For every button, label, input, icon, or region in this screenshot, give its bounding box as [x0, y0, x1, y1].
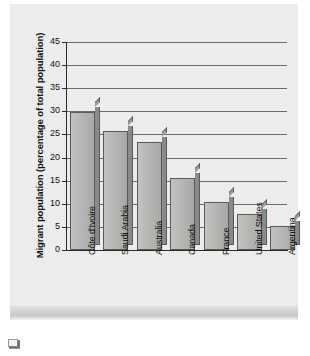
y-axis-title: Migrant population (percentage of total … [34, 21, 45, 271]
x-axis-category-label: United States [254, 202, 264, 255]
y-tick-mark [62, 158, 67, 159]
y-tick-label: 30 [38, 105, 60, 115]
y-tick-label: 20 [38, 152, 60, 162]
x-axis-category-label: Australia [154, 221, 164, 255]
broken-image-icon [8, 339, 21, 350]
y-tick-mark [62, 88, 67, 89]
gridline [67, 134, 287, 135]
y-tick-label: 25 [38, 128, 60, 138]
bar-top-face [195, 163, 200, 173]
y-tick-mark [62, 42, 67, 43]
y-tick-label: 15 [38, 175, 60, 185]
gridline [67, 88, 287, 89]
gridline [67, 158, 287, 159]
y-tick-label: 35 [38, 82, 60, 92]
y-tick-label: 0 [38, 244, 60, 254]
y-tick-mark [62, 250, 67, 251]
y-tick-label: 40 [38, 59, 60, 69]
y-tick-label: 5 [38, 221, 60, 231]
bar-top-face [95, 97, 100, 107]
y-tick-mark [62, 65, 67, 66]
x-axis-category-label: France [221, 228, 231, 255]
y-tick-mark [62, 134, 67, 135]
y-tick-label: 45 [38, 36, 60, 46]
y-axis-line [66, 42, 67, 251]
x-axis-category-label: Saudi Arabia [120, 205, 130, 255]
bar-top-face [229, 187, 234, 197]
gridline [67, 42, 287, 43]
x-axis-category-label: Argentina [287, 217, 297, 255]
y-tick-mark [62, 204, 67, 205]
bar-top-face [128, 116, 133, 126]
bar-top-face [162, 127, 167, 137]
y-tick-mark [62, 227, 67, 228]
gridline [67, 111, 287, 112]
x-axis-category-label: Canada [187, 224, 197, 255]
x-axis-category-label: Côte d'Ivoire [87, 206, 97, 255]
y-tick-mark [62, 181, 67, 182]
y-tick-label: 10 [38, 198, 60, 208]
y-tick-mark [62, 111, 67, 112]
gridline [67, 65, 287, 66]
bar-chart: Migrant population (percentage of total … [0, 0, 310, 356]
